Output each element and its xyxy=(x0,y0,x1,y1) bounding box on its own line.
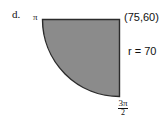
end-angle-label: 3π 2 xyxy=(112,99,134,118)
center-point-label: (75,60) xyxy=(124,12,159,23)
end-angle-numerator: 3π xyxy=(117,99,128,108)
start-angle-label: π xyxy=(33,13,38,22)
end-angle-fraction: 3π 2 xyxy=(117,99,128,118)
radius-label: r = 70 xyxy=(128,46,156,57)
end-angle-denominator: 2 xyxy=(117,109,128,117)
sector-wedge-shape xyxy=(43,20,120,97)
figure-panel: d. π (75,60) r = 70 3π 2 xyxy=(0,0,168,136)
item-letter-label: d. xyxy=(12,9,20,20)
